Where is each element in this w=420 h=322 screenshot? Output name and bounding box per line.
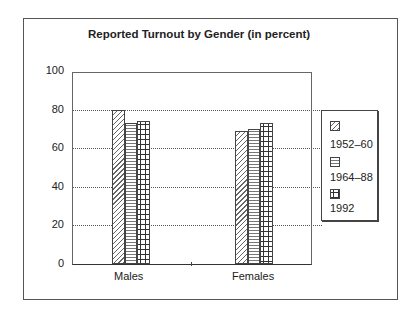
y-tick-label: 60 [40,141,64,153]
bar-males-0 [112,110,125,264]
y-tick-label: 20 [40,218,64,230]
y-tick-label: 80 [40,103,64,115]
legend-label: 1964–88 [330,171,373,183]
chart-title: Reported Turnout by Gender (in percent) [88,28,310,40]
legend-swatch-horizontal-icon [330,157,340,167]
y-tick-label: 40 [40,180,64,192]
bar-females-2 [260,123,273,264]
plot-area [72,72,312,265]
bar-males-1 [125,123,138,264]
legend: 1952–60 1964–88 1992 [321,110,378,221]
legend-swatch-diagonal-icon [330,121,340,131]
legend-label: 1952–60 [330,138,373,150]
y-tick-label: 0 [40,257,64,269]
x-axis-tick [191,262,192,266]
bar-females-0 [235,131,248,264]
legend-swatch-cross-icon [330,189,340,199]
bar-males-2 [137,121,150,264]
y-tick-label: 100 [40,64,64,76]
legend-label: 1992 [330,202,354,214]
x-label-males: Males [114,270,143,282]
bar-females-1 [248,129,261,264]
x-label-females: Females [232,270,274,282]
